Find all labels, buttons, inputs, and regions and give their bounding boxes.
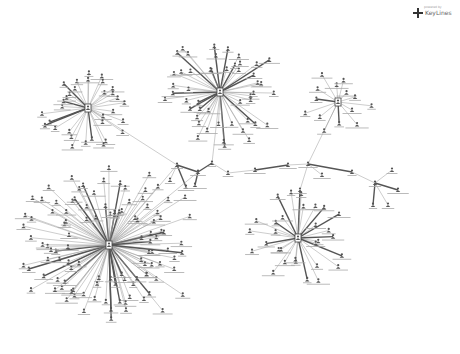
hub-node-icon[interactable] <box>335 98 341 106</box>
person-node-icon[interactable] <box>67 196 83 202</box>
person-node-icon[interactable] <box>62 287 84 293</box>
person-node-icon[interactable] <box>192 121 206 127</box>
person-node-icon[interactable] <box>178 184 194 190</box>
person-node-icon[interactable] <box>78 308 90 314</box>
person-node-icon[interactable] <box>120 307 132 313</box>
person-node-icon[interactable] <box>300 111 310 117</box>
hub-node-icon[interactable] <box>295 234 301 242</box>
person-node-icon[interactable] <box>382 202 394 208</box>
person-node-icon[interactable] <box>182 98 191 104</box>
person-node-icon[interactable] <box>229 54 249 60</box>
person-node-icon[interactable] <box>96 139 115 145</box>
person-node-icon[interactable] <box>270 247 287 253</box>
person-node-icon[interactable] <box>178 250 186 256</box>
person-node-icon[interactable] <box>162 91 185 97</box>
person-node-icon[interactable] <box>34 274 53 280</box>
person-node-icon[interactable] <box>27 216 36 222</box>
person-node-icon[interactable] <box>225 121 238 127</box>
person-node-icon[interactable] <box>313 172 330 178</box>
person-node-icon[interactable] <box>164 267 184 273</box>
person-node-icon[interactable] <box>180 106 199 112</box>
person-node-icon[interactable] <box>312 72 333 78</box>
person-node-icon[interactable] <box>309 86 326 92</box>
person-node-icon[interactable] <box>158 96 172 102</box>
person-node-icon[interactable] <box>62 129 78 135</box>
person-node-icon[interactable] <box>367 103 375 109</box>
person-node-icon[interactable] <box>153 308 173 314</box>
person-node-icon[interactable] <box>245 218 268 224</box>
person-node-icon[interactable] <box>61 289 82 295</box>
person-node-icon[interactable] <box>262 270 285 276</box>
hub-node-icon[interactable] <box>217 88 223 96</box>
person-node-icon[interactable] <box>34 197 50 203</box>
person-node-icon[interactable] <box>88 296 101 302</box>
person-node-icon[interactable] <box>153 210 161 216</box>
person-node-icon[interactable] <box>256 123 278 129</box>
person-node-icon[interactable] <box>61 219 71 225</box>
person-node-icon[interactable] <box>43 185 55 191</box>
person-node-icon[interactable] <box>233 128 254 134</box>
person-node-icon[interactable] <box>165 177 175 183</box>
person-node-icon[interactable] <box>63 175 80 181</box>
person-node-icon[interactable] <box>307 278 330 284</box>
person-node-icon[interactable] <box>91 74 114 80</box>
person-node-icon[interactable] <box>270 194 286 200</box>
person-node-icon[interactable] <box>208 160 216 166</box>
hub-node-icon[interactable] <box>85 104 91 112</box>
person-node-icon[interactable] <box>167 71 181 77</box>
person-node-icon[interactable] <box>333 253 352 259</box>
person-node-icon[interactable] <box>347 169 356 175</box>
person-node-icon[interactable] <box>16 224 30 230</box>
person-node-icon[interactable] <box>104 109 122 115</box>
person-node-icon[interactable] <box>152 184 163 190</box>
person-node-icon[interactable] <box>57 95 76 101</box>
person-node-icon[interactable] <box>62 144 83 150</box>
person-node-icon[interactable] <box>271 247 291 253</box>
person-node-icon[interactable] <box>243 137 255 143</box>
person-node-icon[interactable] <box>287 190 295 196</box>
person-node-icon[interactable] <box>183 214 197 220</box>
person-node-icon[interactable] <box>55 297 78 303</box>
person-node-icon[interactable] <box>171 241 192 247</box>
person-node-icon[interactable] <box>65 265 78 271</box>
person-node-icon[interactable] <box>188 135 207 141</box>
person-node-icon[interactable] <box>328 212 351 218</box>
person-node-icon[interactable] <box>142 172 156 178</box>
person-node-icon[interactable] <box>71 79 83 85</box>
person-node-icon[interactable] <box>99 90 110 96</box>
person-node-icon[interactable] <box>328 264 348 270</box>
person-node-icon[interactable] <box>164 197 172 203</box>
person-node-icon[interactable] <box>102 299 110 305</box>
person-node-icon[interactable] <box>218 143 231 149</box>
person-node-icon[interactable] <box>369 202 377 208</box>
person-node-icon[interactable] <box>345 122 368 128</box>
person-node-icon[interactable] <box>314 114 326 120</box>
person-node-icon[interactable] <box>149 276 164 282</box>
person-node-icon[interactable] <box>116 129 129 135</box>
person-node-icon[interactable] <box>177 46 189 52</box>
person-node-icon[interactable] <box>37 111 47 117</box>
person-node-icon[interactable] <box>269 90 279 96</box>
person-node-icon[interactable] <box>259 57 280 63</box>
person-node-icon[interactable] <box>19 263 28 269</box>
person-node-icon[interactable] <box>334 121 344 127</box>
person-node-icon[interactable] <box>210 121 227 127</box>
person-node-icon[interactable] <box>303 277 311 283</box>
person-node-icon[interactable] <box>223 170 234 176</box>
person-node-icon[interactable] <box>93 142 114 148</box>
person-node-icon[interactable] <box>174 194 197 200</box>
person-node-icon[interactable] <box>143 291 156 297</box>
person-node-icon[interactable] <box>81 136 102 142</box>
person-node-icon[interactable] <box>15 213 36 219</box>
person-node-icon[interactable] <box>81 140 91 146</box>
person-node-icon[interactable] <box>246 97 255 103</box>
network-graph-canvas[interactable] <box>0 0 460 354</box>
person-node-icon[interactable] <box>349 94 361 100</box>
person-node-icon[interactable] <box>175 292 190 298</box>
person-node-icon[interactable] <box>155 261 164 267</box>
person-node-icon[interactable] <box>106 316 117 322</box>
hub-node-icon[interactable] <box>106 241 112 249</box>
person-node-icon[interactable] <box>171 162 183 168</box>
person-node-icon[interactable] <box>317 128 331 134</box>
person-node-icon[interactable] <box>250 121 260 127</box>
